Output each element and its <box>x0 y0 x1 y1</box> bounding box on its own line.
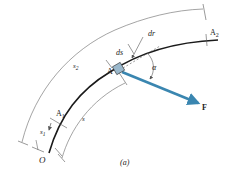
a2-label: A2 <box>210 28 219 38</box>
force-arrow <box>122 72 198 103</box>
s-label: s <box>82 115 85 123</box>
ds-label: ds <box>116 48 123 57</box>
force-label: F <box>202 103 207 112</box>
a1-label: A1 <box>56 109 65 119</box>
path-curve <box>49 40 218 153</box>
diagram-canvas: O A1 A2 A s1 s2 s ds dr α F (a) <box>0 0 231 179</box>
origin-label: O <box>39 155 46 165</box>
s-dimension-arc <box>62 83 125 158</box>
s2-label: s2 <box>73 62 79 71</box>
point-a-label: A <box>107 67 113 76</box>
dr-label: dr <box>148 29 156 38</box>
figure-caption: (a) <box>120 158 130 167</box>
work-along-path-diagram: O A1 A2 A s1 s2 s ds dr α F (a) <box>0 0 231 179</box>
alpha-label: α <box>152 63 157 72</box>
s1-label: s1 <box>40 128 46 137</box>
